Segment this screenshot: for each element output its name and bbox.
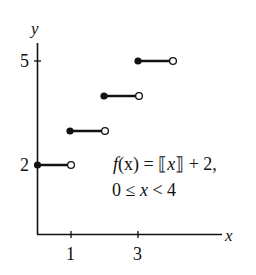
step-segment-y3 [66, 127, 108, 134]
y-axis-label: y [29, 19, 39, 38]
closed-dot [100, 92, 107, 99]
y-tick-label-2: 2 [20, 155, 29, 175]
function-annotation-line1: f(x) = ⟦x⟧ + 2, [113, 154, 217, 175]
open-dot [68, 162, 75, 169]
open-dot [170, 58, 177, 65]
x-tick-label-3: 3 [133, 244, 142, 264]
open-dot [136, 93, 143, 100]
step-segment-y2 [34, 161, 75, 168]
step-function-chart: y x 5 2 1 3 f(x) = ⟦x⟧ + 2, 0 ≤ x < 4 [0, 0, 256, 275]
closed-dot [66, 127, 73, 134]
closed-dot [134, 57, 141, 64]
x-axis-label: x [224, 226, 233, 245]
closed-dot [34, 161, 41, 168]
y-tick-label-5: 5 [20, 51, 29, 71]
function-annotation-line2: 0 ≤ x < 4 [112, 180, 176, 200]
open-dot [102, 128, 109, 135]
x-tick-label-1: 1 [66, 244, 75, 264]
step-segment-y5 [134, 57, 176, 64]
step-segment-y4 [100, 92, 142, 99]
